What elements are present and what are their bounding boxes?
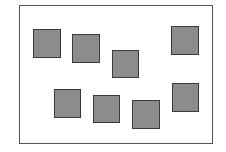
gray-square <box>33 29 61 58</box>
gray-square <box>171 26 199 55</box>
gray-square <box>112 50 139 78</box>
gray-square <box>72 34 100 63</box>
gray-square <box>93 95 120 123</box>
gray-square <box>172 83 199 112</box>
gray-square <box>54 89 81 118</box>
gray-square <box>132 100 160 129</box>
